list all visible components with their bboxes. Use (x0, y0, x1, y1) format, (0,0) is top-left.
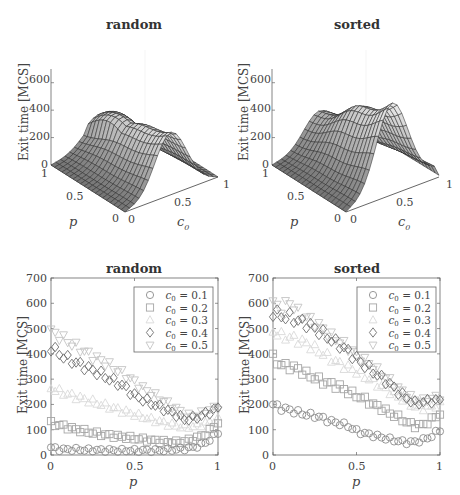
marker-circle (286, 406, 293, 413)
marker-square (282, 360, 289, 367)
marker-circle (370, 434, 377, 441)
marker-circle (428, 434, 435, 441)
marker-square (315, 373, 322, 380)
marker-triangle-down (315, 320, 323, 327)
marker-square (290, 362, 297, 369)
marker-circle (382, 436, 389, 443)
marker-square (382, 405, 389, 412)
marker-triangle-down (373, 364, 381, 371)
ytick-label: 600 (248, 297, 269, 310)
marker-square (340, 386, 347, 393)
marker-circle (411, 438, 418, 445)
marker-circle (353, 425, 360, 432)
marker-square (324, 379, 331, 386)
marker-square (420, 420, 427, 427)
marker-circle (399, 437, 406, 444)
ytick-label: 100 (248, 424, 269, 437)
xlabel-scatter-sorted: p (352, 474, 360, 489)
marker-circle (357, 431, 364, 438)
marker-diamond (345, 344, 352, 353)
marker-circle (390, 438, 397, 445)
marker-triangle-up (307, 346, 315, 353)
marker-triangle-down (294, 304, 302, 311)
xtick-1-random: 1 (214, 460, 221, 473)
marker-triangle-up (311, 340, 319, 347)
marker-circle (328, 416, 335, 423)
ytick-label: 0 (262, 449, 269, 462)
marker-square (320, 381, 327, 388)
marker-circle (386, 434, 393, 441)
marker-circle (365, 430, 372, 437)
xtick-05-sorted: 0.5 (348, 460, 366, 473)
marker-square (395, 411, 402, 418)
xtick-1-sorted: 1 (436, 460, 443, 473)
marker-triangle-up (340, 365, 348, 372)
xtick-0-random: 0 (47, 460, 54, 473)
marker-diamond (286, 308, 293, 317)
ylabel-scatter-random: Exit time [MCS] (16, 310, 30, 420)
marker-triangle-up (348, 365, 356, 372)
marker-triangle-up (386, 390, 394, 397)
marker-circle (324, 419, 331, 426)
marker-square (432, 414, 439, 421)
marker-circle (416, 439, 423, 446)
ylabel-scatter-sorted: Exit time [MCS] (238, 310, 252, 420)
marker-triangle-up (315, 349, 323, 356)
marker-diamond (332, 334, 339, 343)
marker-square (428, 414, 435, 421)
scatter-plot-sorted: 0100200300400500600700c0 = 0.1c0 = 0.2c0… (0, 0, 460, 495)
marker-circle (424, 435, 431, 442)
marker-circle (349, 425, 356, 432)
marker-triangle-down (340, 337, 348, 344)
marker-triangle-up (294, 340, 302, 347)
marker-triangle-up (319, 351, 327, 358)
ytick-label: 700 (248, 272, 269, 285)
marker-square (311, 376, 318, 383)
marker-circle (315, 413, 322, 420)
marker-circle (311, 414, 318, 421)
marker-circle (345, 424, 352, 431)
marker-triangle-up (282, 336, 290, 343)
marker-square (307, 374, 314, 381)
marker-square (336, 381, 343, 388)
xtick-0-sorted: 0 (269, 460, 276, 473)
marker-square (286, 367, 293, 374)
xlabel-scatter-random: p (129, 474, 137, 489)
marker-diamond (274, 305, 281, 314)
xtick-05-random: 0.5 (126, 460, 144, 473)
marker-square (424, 421, 431, 428)
